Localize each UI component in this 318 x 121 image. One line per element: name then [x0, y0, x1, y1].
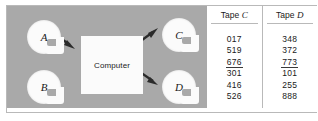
tape-c-header-prefix: Tape: [221, 10, 239, 20]
tape-value-row: 372: [263, 39, 318, 50]
tape-d-header-letter: D: [297, 10, 304, 20]
tape-c-column: Tape C 017519676301416526: [207, 6, 262, 108]
tape-value-row: 017: [207, 28, 262, 39]
tape-reel-c-label: C: [162, 18, 196, 52]
tape-value-row: 301: [207, 62, 262, 73]
tape-value-row: 101: [263, 62, 318, 73]
tape-d-header-prefix: Tape: [276, 10, 294, 20]
tape-value-row: 255: [263, 74, 318, 85]
tape-value-row: 526: [207, 85, 262, 96]
tape-reel-c: C: [162, 18, 200, 56]
tape-c-header: Tape C: [211, 10, 258, 24]
diagram-panel: A B C D Computer: [7, 6, 207, 108]
tape-c-header-letter: C: [242, 10, 248, 20]
tape-value-row: 676: [207, 51, 262, 62]
computer-box: Computer: [81, 36, 143, 94]
tape-value-row: 348: [263, 28, 318, 39]
tape-d-header: Tape D: [267, 10, 314, 24]
tape-value-row: 773: [263, 51, 318, 62]
tape-reel-b: B: [27, 70, 65, 108]
tape-reel-b-label: B: [27, 70, 61, 104]
tape-value-row: 519: [207, 39, 262, 50]
computer-box-label: Computer: [94, 61, 130, 70]
tape-c-values: 017519676301416526: [207, 24, 262, 96]
tape-contents-table: Tape C 017519676301416526 Tape D 3483727…: [207, 6, 317, 108]
tape-value: 888: [282, 91, 297, 101]
tape-d-values: 348372773101255888: [263, 24, 318, 96]
tape-reel-d: D: [162, 70, 200, 108]
tape-reel-a-label: A: [27, 20, 61, 54]
figure-tape-merge: A B C D Computer: [0, 0, 318, 121]
tape-value: 526: [227, 91, 242, 101]
tape-d-column: Tape D 348372773101255888: [262, 6, 318, 108]
tape-value-row: 416: [207, 74, 262, 85]
tape-reel-a: A: [27, 20, 65, 58]
tape-value-row: 888: [263, 85, 318, 96]
tape-reel-d-label: D: [162, 70, 196, 104]
